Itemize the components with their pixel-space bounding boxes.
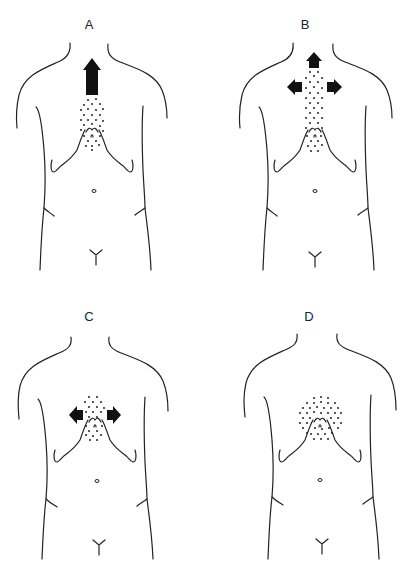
arrow-right-icon — [107, 406, 121, 424]
torso-outline — [207, 287, 414, 574]
torso-outline — [0, 287, 207, 574]
panel-a: A — [0, 0, 207, 287]
panel-d: D — [207, 287, 414, 574]
arrow-left-icon — [69, 406, 83, 424]
arrow-up-icon — [306, 52, 322, 68]
panel-b: B — [207, 0, 414, 287]
arrow-right-icon — [327, 79, 342, 95]
torso-outline — [207, 0, 414, 287]
stipple-region — [80, 98, 104, 151]
panel-c: C — [0, 287, 207, 574]
stipple-region — [299, 396, 342, 440]
arrow-left-icon — [287, 79, 302, 95]
torso-outline — [0, 0, 207, 287]
arrow-up-icon — [83, 58, 101, 95]
stipple-region — [305, 71, 323, 152]
